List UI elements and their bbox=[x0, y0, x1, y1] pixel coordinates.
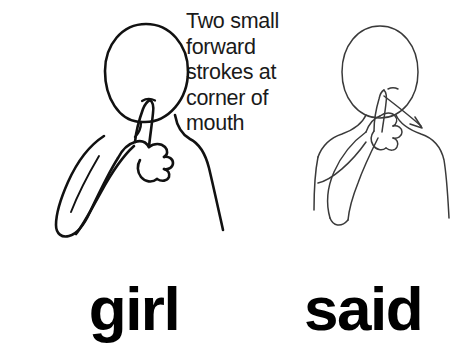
asl-illustration-page: Two small forward strokes at corner of m… bbox=[0, 0, 468, 363]
forearm-crease bbox=[318, 142, 366, 183]
knuckle-lower bbox=[157, 169, 169, 181]
arm-lower-end bbox=[330, 218, 348, 225]
arm-inner-edge bbox=[348, 138, 378, 220]
index-finger-right-edge bbox=[149, 100, 153, 147]
fist-outline bbox=[118, 141, 149, 158]
arm-outline bbox=[56, 136, 118, 237]
head-outline bbox=[105, 24, 188, 122]
neck-right-shoulder bbox=[175, 115, 223, 230]
thumb-fold bbox=[138, 160, 157, 181]
sign-illustration-girl bbox=[42, 16, 228, 242]
mouth-line bbox=[388, 88, 398, 89]
word-label-said: said bbox=[258, 278, 468, 340]
motion-arrow-shaft bbox=[384, 96, 421, 126]
knuckle-lower bbox=[386, 138, 398, 150]
knuckle-middle bbox=[393, 126, 402, 138]
knuckle-middle bbox=[164, 157, 173, 169]
word-label-girl: girl bbox=[0, 278, 268, 340]
head-outline bbox=[342, 26, 418, 118]
sign-illustration-said bbox=[300, 20, 460, 242]
knuckle-upper bbox=[149, 144, 167, 157]
right-shoulder bbox=[396, 115, 449, 218]
arm-outline-inner-edge bbox=[76, 146, 134, 234]
torso-left-side bbox=[314, 157, 318, 210]
